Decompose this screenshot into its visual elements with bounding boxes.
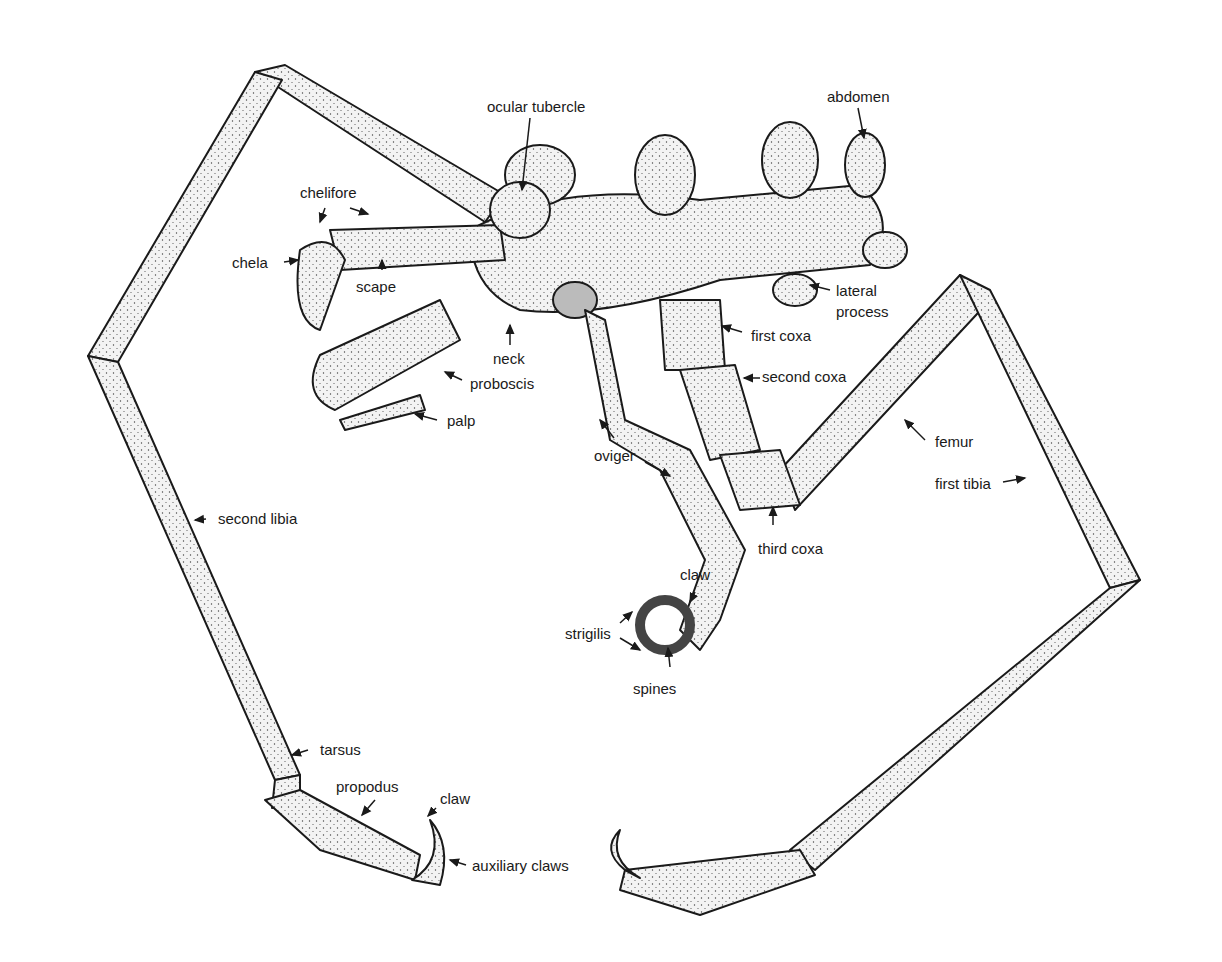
left-femur	[255, 65, 505, 222]
label-femur: femur	[935, 433, 973, 450]
left-first-tibia	[88, 72, 282, 362]
label-claw-oviger: claw	[680, 566, 710, 583]
label-chela: chela	[232, 254, 268, 271]
left-propodus	[265, 790, 420, 880]
right-second-tibia	[790, 580, 1140, 870]
first-coxa	[660, 300, 725, 370]
lateral-process-3	[762, 122, 818, 198]
label-second-libia: second libia	[218, 510, 297, 527]
lateral-process-4	[863, 232, 907, 268]
label-first-coxa: first coxa	[751, 327, 811, 344]
label-abdomen: abdomen	[827, 88, 890, 105]
label-spines: spines	[633, 680, 676, 697]
sea-spider-illustration	[0, 0, 1222, 962]
label-third-coxa: third coxa	[758, 540, 823, 557]
label-tarsus: tarsus	[320, 741, 361, 758]
label-lateral-process-line2: process	[836, 303, 889, 320]
proboscis	[313, 300, 460, 410]
label-neck: neck	[493, 350, 525, 367]
lateral-process-2	[635, 135, 695, 215]
right-propodus	[620, 850, 815, 915]
label-chelifore: chelifore	[300, 184, 357, 201]
second-coxa	[680, 365, 760, 460]
label-proboscis: proboscis	[470, 375, 534, 392]
label-first-tibia: first tibia	[935, 475, 991, 492]
abdomen-shape	[845, 133, 885, 197]
lateral-process-5	[773, 274, 817, 306]
label-propodus: propodus	[336, 778, 399, 795]
label-scape: scape	[356, 278, 396, 295]
label-strigilis: strigilis	[565, 625, 611, 642]
third-coxa	[720, 450, 800, 510]
label-ocular-tubercle: ocular tubercle	[487, 98, 585, 115]
label-lateral-process-line1: lateral	[836, 282, 877, 299]
label-second-coxa: second coxa	[762, 368, 846, 385]
left-second-tibia	[88, 356, 300, 780]
label-palp: palp	[447, 412, 475, 429]
ocular-tubercle	[490, 182, 550, 238]
label-auxiliary-claws: auxiliary claws	[472, 857, 569, 874]
label-claw-leg: claw	[440, 790, 470, 807]
label-oviger: oviger	[594, 447, 635, 464]
right-first-tibia	[960, 275, 1140, 588]
chela	[298, 242, 346, 330]
